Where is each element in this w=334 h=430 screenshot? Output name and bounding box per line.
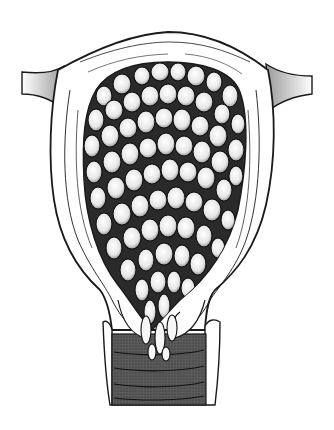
medical-illustration <box>0 0 334 430</box>
uterus-drawing <box>0 0 334 430</box>
